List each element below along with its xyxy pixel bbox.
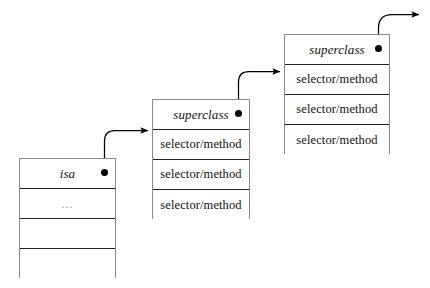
middle-method-label-2: selector/method <box>160 168 241 181</box>
middle-row-method-1[interactable]: selector/method <box>153 130 249 160</box>
middle-superclass-label: superclass <box>173 108 228 121</box>
instance-object-box[interactable]: isa ... <box>19 158 116 278</box>
right-method-label-3: selector/method <box>296 134 377 147</box>
right-row-method-2[interactable]: selector/method <box>285 95 389 125</box>
middle-method-label-3: selector/method <box>160 199 241 212</box>
middle-row-method-3[interactable]: selector/method <box>153 190 249 220</box>
class-object-box-middle[interactable]: superclass selector/method selector/meth… <box>152 99 250 219</box>
right-method-label-2: selector/method <box>296 103 377 116</box>
instance-row-empty-1[interactable] <box>20 219 115 249</box>
right-row-method-1[interactable]: selector/method <box>285 65 389 95</box>
right-row-superclass[interactable]: superclass <box>285 35 389 65</box>
instance-row-empty-2[interactable] <box>20 249 115 279</box>
right-method-label-1: selector/method <box>296 73 377 86</box>
instance-ellipsis-label: ... <box>62 198 74 210</box>
middle-superclass-pointer-dot <box>235 110 242 117</box>
middle-method-label-1: selector/method <box>160 138 241 151</box>
class-object-box-right[interactable]: superclass selector/method selector/meth… <box>284 34 390 154</box>
isa-pointer-dot <box>101 169 108 176</box>
instance-row-ellipsis[interactable]: ... <box>20 189 115 219</box>
right-row-method-3[interactable]: selector/method <box>285 125 389 155</box>
middle-row-method-2[interactable]: selector/method <box>153 160 249 190</box>
right-superclass-pointer-dot <box>375 45 382 52</box>
right-superclass-label: superclass <box>309 43 364 56</box>
diagram-canvas: isa ... superclass selector/method selec… <box>0 0 430 288</box>
instance-isa-label: isa <box>60 167 75 180</box>
